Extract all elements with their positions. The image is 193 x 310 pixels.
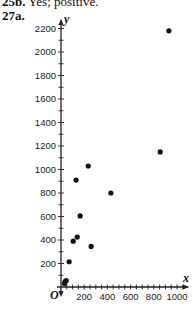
y-axis-label: y — [62, 12, 70, 26]
x-axis-arrow-icon — [183, 285, 189, 290]
y-tick-label: 800 — [40, 187, 56, 198]
data-point — [89, 244, 94, 249]
y-tick-label: 200 — [40, 258, 56, 269]
y-tick-label: 1800 — [35, 70, 56, 81]
data-point — [86, 163, 91, 168]
data-point — [71, 239, 76, 244]
x-tick-label: 1000 — [166, 291, 187, 302]
scatter-plot: 2004006008001000120014001600180020002200… — [0, 0, 193, 310]
x-tick-label: 800 — [146, 291, 162, 302]
x-tick-label: 600 — [123, 291, 139, 302]
origin-label: O — [50, 288, 59, 302]
y-tick-label: 1400 — [35, 117, 56, 128]
x-tick-label: 400 — [99, 291, 115, 302]
y-tick-label: 2000 — [35, 46, 56, 57]
data-point — [158, 149, 163, 154]
data-point — [108, 190, 113, 195]
y-tick-label: 2200 — [35, 23, 56, 34]
data-point — [78, 213, 83, 218]
y-tick-label: 1000 — [35, 164, 56, 175]
y-tick-label: 400 — [40, 234, 56, 245]
data-point — [73, 177, 78, 182]
y-axis-down-arrow-icon — [59, 291, 64, 297]
y-axis-arrow-icon — [59, 19, 64, 25]
data-point — [62, 281, 67, 286]
y-tick-label: 1600 — [35, 93, 56, 104]
y-tick-label: 600 — [40, 211, 56, 222]
data-point — [67, 259, 72, 264]
x-tick-label: 200 — [76, 291, 92, 302]
y-tick-label: 1200 — [35, 140, 56, 151]
data-point — [75, 234, 80, 239]
x-axis-label: x — [182, 271, 189, 285]
data-point — [166, 28, 171, 33]
